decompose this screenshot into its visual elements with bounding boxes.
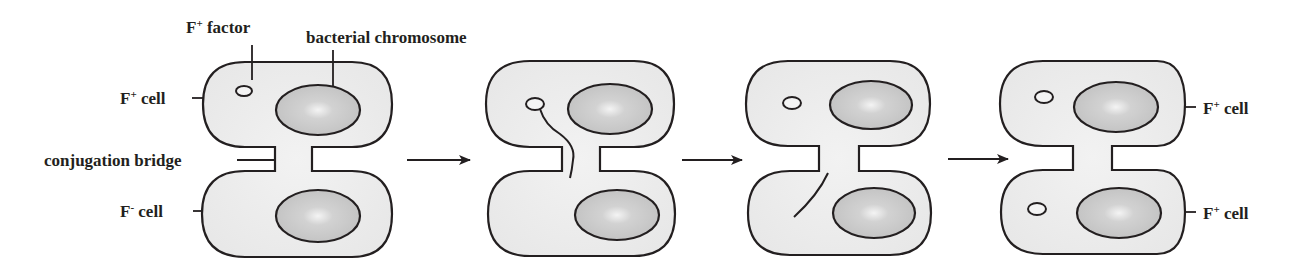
bacterial-chromosome-bottom xyxy=(276,190,360,242)
f-plus-cell-label-top: F+ cell xyxy=(1203,98,1249,118)
bacterial-chromosome-top xyxy=(1074,82,1158,132)
f-plus-cell-label-bottom: F+ cell xyxy=(1203,203,1249,223)
f-plus-cell-label: F+ cell xyxy=(120,88,166,108)
f-factor-label: F+ factor xyxy=(186,17,251,37)
chromosome-label: bacterial chromosome xyxy=(306,28,467,47)
f-minus-cell-label: F- cell xyxy=(120,201,163,221)
bacterial-chromosome-bottom xyxy=(575,190,659,240)
bridge-label: conjugation bridge xyxy=(44,151,182,170)
f-factor-plasmid-bottom xyxy=(1028,203,1046,215)
conjugation-diagram: F+ factor bacterial chromosome F+ cell c… xyxy=(0,0,1290,277)
stage-1: F+ factor bacterial chromosome F+ cell c… xyxy=(44,17,467,257)
bacterial-chromosome-top xyxy=(276,85,360,135)
diagram-canvas: F+ factor bacterial chromosome F+ cell c… xyxy=(0,0,1290,277)
f-factor-plasmid xyxy=(783,97,801,109)
bacterial-chromosome-top xyxy=(568,84,652,134)
f-factor-plasmid xyxy=(526,98,544,110)
stage-4: F+ cell F+ cell xyxy=(1000,61,1249,254)
bacterial-chromosome-bottom xyxy=(833,188,915,238)
f-factor-plasmid-top xyxy=(1035,91,1053,103)
bacterial-chromosome-top xyxy=(830,81,912,129)
stage-2 xyxy=(486,61,675,256)
bacterial-chromosome-bottom xyxy=(1077,188,1161,238)
f-factor-plasmid xyxy=(236,86,252,96)
stage-3 xyxy=(746,61,931,255)
